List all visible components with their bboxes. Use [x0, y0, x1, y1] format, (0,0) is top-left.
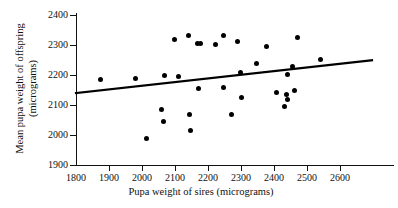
y-tick-label-1900: 1900 — [32, 160, 68, 170]
x-tick-2200 — [208, 165, 209, 171]
data-point — [176, 74, 181, 79]
y-tick-label-2200: 2200 — [32, 70, 68, 80]
scatter-plot-figure: Mean pupa weight of offspring (microgram… — [0, 0, 398, 208]
data-point — [292, 88, 297, 93]
y-tick-2300 — [70, 45, 76, 46]
data-point — [264, 44, 269, 49]
data-point — [196, 86, 201, 91]
x-tick-label-2600: 2600 — [320, 173, 360, 183]
data-point — [188, 128, 193, 133]
y-tick-2200 — [70, 75, 76, 76]
data-point — [285, 97, 290, 102]
y-tick-2400 — [70, 15, 76, 16]
data-point — [239, 95, 244, 100]
data-point — [221, 33, 226, 38]
data-point — [290, 64, 295, 69]
x-tick-2400 — [274, 165, 275, 171]
data-point — [229, 112, 234, 117]
y-axis-line — [76, 13, 77, 166]
data-point — [235, 39, 240, 44]
data-point — [98, 77, 103, 82]
data-point — [318, 57, 323, 62]
data-point — [254, 61, 259, 66]
data-point — [161, 119, 166, 124]
y-tick-label-2400: 2400 — [32, 10, 68, 20]
data-point — [159, 107, 164, 112]
x-tick-2300 — [241, 165, 242, 171]
y-tick-2100 — [70, 105, 76, 106]
data-point — [285, 72, 290, 77]
y-tick-label-2000: 2000 — [32, 130, 68, 140]
x-tick-2000 — [142, 165, 143, 171]
data-point — [144, 136, 149, 141]
x-tick-2600 — [340, 165, 341, 171]
data-point — [187, 112, 192, 117]
y-tick-label-2100: 2100 — [32, 100, 68, 110]
data-point — [162, 73, 167, 78]
data-point — [198, 41, 203, 46]
x-tick-2500 — [307, 165, 308, 171]
data-point — [133, 76, 138, 81]
plot-area: 190020002100220023002400 180019002000210… — [0, 0, 398, 208]
y-tick-label-2300: 2300 — [32, 40, 68, 50]
data-point — [284, 92, 289, 97]
data-point — [238, 70, 243, 75]
data-point — [295, 35, 300, 40]
data-point — [172, 37, 177, 42]
x-axis-title: Pupa weight of sires (micrograms) — [76, 186, 326, 197]
y-tick-1900 — [70, 165, 76, 166]
data-point — [282, 104, 287, 109]
data-point — [213, 42, 218, 47]
data-point — [274, 90, 279, 95]
data-point — [221, 85, 226, 90]
x-axis-line — [76, 165, 394, 166]
data-point — [186, 33, 191, 38]
x-tick-2100 — [175, 165, 176, 171]
y-tick-2000 — [70, 135, 76, 136]
x-tick-1900 — [109, 165, 110, 171]
